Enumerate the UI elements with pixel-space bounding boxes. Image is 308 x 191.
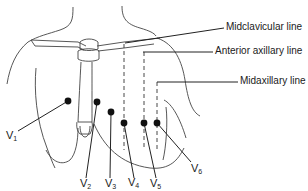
v2-label: V2 xyxy=(80,178,91,190)
anterior-axillary-line-label: Anterior axillary line xyxy=(215,46,302,56)
v1-label: V1 xyxy=(6,130,17,142)
left-lower-curve xyxy=(46,128,78,163)
v1-leader xyxy=(18,101,68,131)
v3-leader xyxy=(110,112,111,178)
midclavicular-line-label: Midclavicular line xyxy=(226,22,302,32)
v5-electrode xyxy=(141,120,148,127)
left-clavicle xyxy=(31,40,86,50)
midclavicular-leader xyxy=(125,28,224,43)
v2-leader xyxy=(86,102,97,178)
v4-electrode xyxy=(121,120,128,127)
v6-leader xyxy=(157,123,191,162)
v5-leader xyxy=(144,123,156,178)
v1-electrode xyxy=(65,98,72,105)
right-chest-line xyxy=(164,100,186,138)
v6-electrode xyxy=(154,120,161,127)
v2-electrode xyxy=(94,99,101,106)
midaxillary-line-label: Midaxillary line xyxy=(240,76,306,86)
v4-leader xyxy=(124,123,134,178)
left-shoulder-outline xyxy=(7,42,28,84)
right-clavicle xyxy=(97,38,160,51)
v3-label: V3 xyxy=(105,178,116,190)
right-shoulder-outline xyxy=(157,38,200,116)
neck-left-outline xyxy=(28,7,73,42)
v6-label: V6 xyxy=(191,163,202,175)
sternum-body xyxy=(78,62,92,122)
xiphoid xyxy=(80,126,90,137)
v3-electrode xyxy=(108,109,115,116)
v5-label: V5 xyxy=(150,178,161,190)
left-arm-inner-outline xyxy=(35,68,55,168)
v4-label: V4 xyxy=(128,177,139,189)
neck-right-outline xyxy=(122,6,156,36)
lower-chest-curve xyxy=(94,124,184,168)
